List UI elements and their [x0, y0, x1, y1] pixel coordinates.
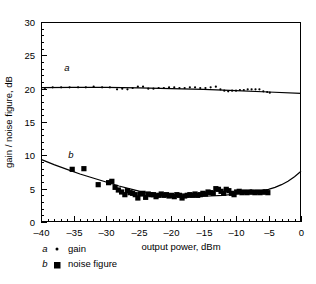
data-point-dot — [152, 88, 154, 90]
data-point-dot — [109, 86, 111, 88]
data-point-dot — [147, 88, 149, 90]
data-point-dot — [199, 87, 201, 89]
x-tick-label: 0 — [299, 227, 304, 238]
major-ticks: –40–35–30–25–20–15–10–50051015202530 — [24, 17, 304, 238]
series-noise-figure — [41, 159, 301, 200]
data-point-dot — [121, 88, 123, 90]
data-point-dot — [178, 87, 180, 89]
legend-label-a: gain — [68, 243, 86, 254]
data-point-dot — [126, 88, 128, 90]
data-point-dot — [184, 87, 186, 89]
fit-curve-a — [41, 87, 301, 93]
y-tick-label: 10 — [24, 150, 35, 161]
data-point-dot — [69, 86, 71, 88]
data-point-dot — [239, 89, 241, 91]
y-tick-label: 20 — [24, 84, 35, 95]
y-axis-title: gain / noise figure, dB — [3, 76, 14, 168]
data-point-dot — [137, 86, 139, 88]
x-tick-label: –35 — [67, 227, 83, 238]
x-tick-label: –25 — [132, 227, 148, 238]
data-point-dot — [219, 88, 221, 90]
data-point-dot — [251, 88, 253, 90]
data-point-square — [211, 191, 216, 196]
data-point-dot — [132, 87, 134, 89]
legend: againbnoise figure — [42, 243, 117, 269]
y-tick-label: 15 — [24, 117, 35, 128]
data-point-dot — [60, 86, 62, 88]
data-point-square — [109, 179, 114, 184]
x-axis-title: output power, dBm — [141, 241, 220, 252]
series-gain — [41, 86, 301, 94]
data-point-dot — [44, 87, 46, 89]
data-point-dot — [163, 87, 165, 89]
data-point-dot — [254, 88, 256, 90]
data-point-dot — [227, 90, 229, 92]
y-tick-label: 30 — [24, 17, 35, 28]
x-tick-label: –30 — [99, 227, 115, 238]
data-point-dot — [262, 90, 264, 92]
x-tick-label: –5 — [264, 227, 275, 238]
data-point-dot — [52, 86, 54, 88]
chart-canvas: –40–35–30–25–20–15–10–50051015202530outp… — [0, 0, 316, 284]
figure-container: –40–35–30–25–20–15–10–50051015202530outp… — [0, 0, 316, 284]
legend-marker-square — [54, 262, 61, 269]
legend-label-b: noise figure — [68, 258, 117, 269]
data-point-dot — [215, 86, 217, 88]
data-point-dot — [101, 86, 103, 88]
x-tick-label: –20 — [164, 227, 180, 238]
data-point-dot — [93, 86, 95, 88]
legend-letter-a: a — [42, 243, 47, 254]
data-point-dot — [116, 88, 118, 90]
data-point-dot — [173, 86, 175, 88]
y-tick-label: 25 — [24, 50, 35, 61]
curve-label-b: b — [68, 149, 73, 160]
data-point-dot — [85, 86, 87, 88]
data-point-dot — [243, 89, 245, 91]
y-tick-label: 5 — [30, 184, 35, 195]
data-point-dot — [235, 90, 237, 92]
data-point-dot — [223, 90, 225, 92]
data-point-square — [265, 190, 270, 195]
data-point-dot — [266, 91, 268, 93]
data-point-dot — [158, 87, 160, 89]
data-point-dot — [247, 88, 249, 90]
data-point-dot — [189, 86, 191, 88]
x-tick-label: –15 — [197, 227, 213, 238]
data-point-dot — [231, 90, 233, 92]
data-point-dot — [258, 88, 260, 90]
data-point-dot — [77, 86, 79, 88]
curve-label-a: a — [64, 62, 69, 73]
legend-marker-dot — [56, 248, 59, 251]
x-tick-label: –10 — [229, 227, 245, 238]
x-tick-label: –40 — [34, 227, 50, 238]
data-point-dot — [142, 86, 144, 88]
data-point-square — [81, 166, 86, 171]
data-point-dot — [210, 86, 212, 88]
data-point-dot — [194, 86, 196, 88]
data-point-dot — [204, 87, 206, 89]
legend-letter-b: b — [42, 258, 47, 269]
data-point-square — [70, 167, 75, 172]
y-tick-label: 0 — [30, 217, 35, 228]
data-point-square — [96, 182, 101, 187]
data-point-dot — [269, 92, 271, 94]
data-point-dot — [168, 86, 170, 88]
